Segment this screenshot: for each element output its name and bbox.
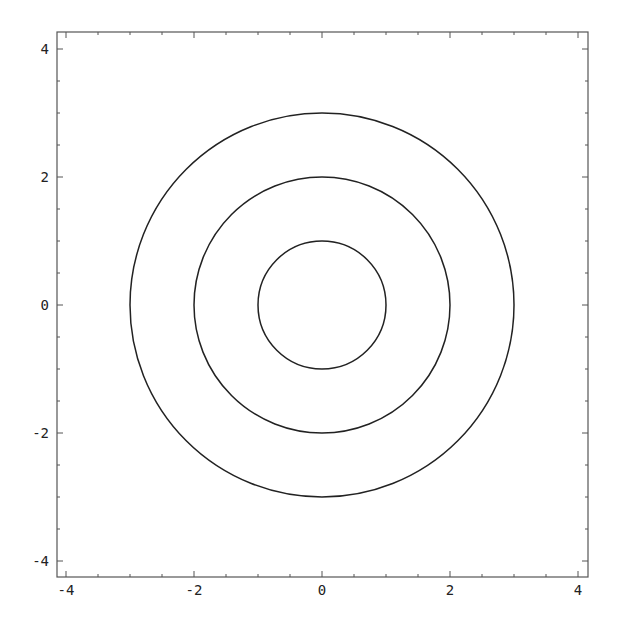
contour-circle-r3 — [130, 113, 514, 497]
y-tick-label: 2 — [41, 169, 49, 185]
contour-circle-r2 — [194, 177, 450, 433]
x-tick-label: -4 — [58, 582, 75, 598]
y-tick-label: 0 — [41, 297, 49, 313]
x-tick-label: 2 — [446, 582, 454, 598]
x-tick-label: 0 — [318, 582, 326, 598]
contour-plot: -4-2024-4-2024 — [0, 0, 620, 630]
y-tick-label: 4 — [41, 41, 49, 57]
y-tick-label: -2 — [32, 425, 49, 441]
y-tick-label: -4 — [32, 553, 49, 569]
x-tick-label: -2 — [186, 582, 203, 598]
contour-circle-r1 — [258, 241, 386, 369]
x-tick-label: 4 — [574, 582, 582, 598]
